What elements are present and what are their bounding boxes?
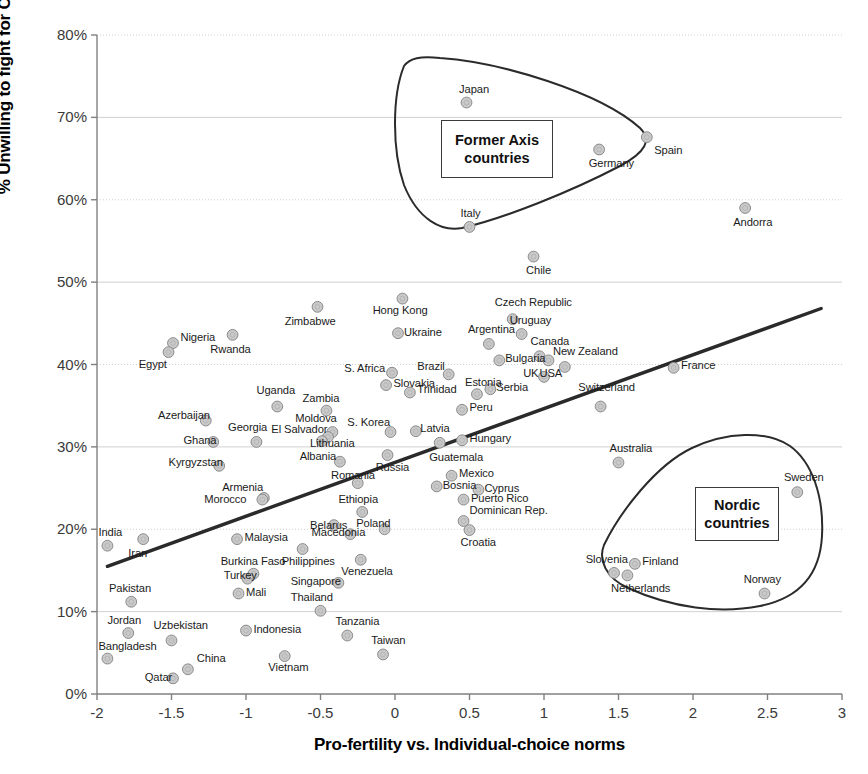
point-label: Trinidad [417,383,456,395]
callout-former-axis: Former Axis countries [441,120,553,178]
point-label: Russia [376,461,410,473]
point-label: Ethiopia [338,493,378,505]
point-label: S. Korea [347,416,390,428]
point-label: Zimbabwe [285,315,336,327]
callout-nordic: Nordic countries [695,487,779,541]
y-tick-label: 60% [41,191,87,208]
point-label: Bulgaria [505,352,545,364]
point-label: Romania [331,469,375,481]
point-label: USA [540,367,563,379]
callout-former-axis-line2: countries [455,149,539,167]
point-label: Sweden [784,471,824,483]
point-label: Poland [356,517,390,529]
y-tick-label: 20% [41,520,87,537]
point-label: Albania [300,450,337,462]
point-label: Uzbekistan [154,619,208,631]
chart-container: % Unwilling to fight for Country Pro-fer… [0,0,868,774]
point-label: Zambia [303,392,340,404]
x-tick-label: 2 [668,704,718,721]
point-label: Singapore [291,575,341,587]
point-label: El Salvador [271,423,327,435]
point-label: France [681,359,715,371]
point-label: Latvia [420,422,449,434]
x-tick-label: 0.5 [445,704,495,721]
point-label: S. Africa [344,362,385,374]
point-label: Hong Kong [373,304,428,316]
point-label: Guatemala [429,451,483,463]
x-tick-label: 1.5 [594,704,644,721]
y-tick-label: 10% [41,603,87,620]
point-label: Andorra [733,216,772,228]
point-label: Mexico [459,467,494,479]
point-label: Malaysia [245,531,288,543]
point-label: Serbia [496,381,528,393]
x-tick-label: 0 [370,704,420,721]
point-label: Indonesia [253,623,301,635]
point-label: Ukraine [404,326,442,338]
x-axis-label: Pro-fertility vs. Individual-choice norm… [97,735,842,755]
point-label: Italy [461,207,481,219]
point-label: Burkina Faso [221,555,286,567]
point-label: Netherlands [611,582,670,594]
point-label: Iran [128,547,147,559]
point-label: Morocco [204,493,246,505]
y-tick-label: 0% [41,685,87,702]
point-label: Rwanda [210,343,250,355]
point-label: Azerbaijan [158,409,210,421]
y-tick-label: 50% [41,273,87,290]
point-label: Armenia [222,481,263,493]
point-label: Thailand [291,591,333,603]
x-tick-label: -1.5 [147,704,197,721]
point-label: Jordan [107,614,141,626]
point-label: Slovenia [586,553,628,565]
point-label: UK [523,367,538,379]
point-label: Japan [459,83,489,95]
point-label: Brazil [417,360,444,372]
point-label: Uganda [256,384,295,396]
point-label: China [197,652,226,664]
point-label: Taiwan [371,634,405,646]
point-label: Turkey [224,569,257,581]
point-label: Nigeria [180,331,215,343]
point-label: Bangladesh [98,640,156,652]
point-label: Lithuania [310,437,355,449]
point-label: Bosnia [443,479,477,491]
point-label: Egypt [139,358,167,370]
callout-nordic-line1: Nordic [704,496,769,514]
y-tick-label: 40% [41,356,87,373]
x-tick-label: -2 [72,704,122,721]
point-label: Chile [526,264,551,276]
y-tick-label: 80% [41,26,87,43]
point-label: Australia [610,442,653,454]
x-tick-label: -1 [221,704,271,721]
y-tick-label: 30% [41,438,87,455]
point-label: Dominican Rep. [470,504,548,516]
point-label: Venezuela [341,565,392,577]
callout-nordic-line2: countries [704,514,769,532]
point-label: New Zealand [553,345,618,357]
point-label: Philippines [282,555,335,567]
point-label: Czech Republic [495,296,572,308]
point-label: Tanzania [335,615,379,627]
point-label: Qatar [145,671,172,683]
point-label: Norway [744,573,781,585]
point-label: Finland [642,555,678,567]
point-label: Peru [470,401,493,413]
point-label: Georgia [228,421,267,433]
point-label: Hungary [470,432,512,444]
point-label: Ghana [183,434,216,446]
point-label: Cyprus [484,482,519,494]
x-tick-label: 2.5 [743,704,793,721]
point-label: India [98,526,122,538]
point-label: Argentina [468,323,515,335]
point-label: Spain [654,144,682,156]
point-label: Pakistan [109,582,151,594]
x-tick-label: 1 [519,704,569,721]
point-label: Mali [246,586,266,598]
point-label: Switzerland [578,381,635,393]
x-tick-label: -0.5 [296,704,346,721]
callout-former-axis-line1: Former Axis [455,131,539,149]
point-label: Germany [589,157,634,169]
point-label: Uruguay [510,314,552,326]
point-label: Kyrgyzstan [169,456,223,468]
